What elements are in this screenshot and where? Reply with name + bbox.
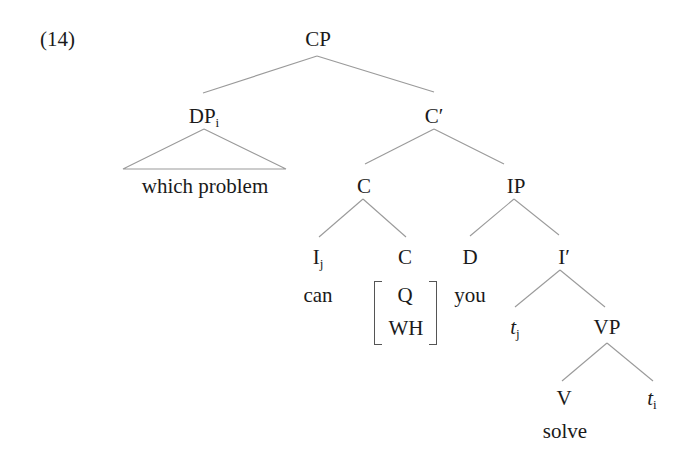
node-cp-label: CP <box>305 27 331 51</box>
trace-j-index: j <box>516 326 520 341</box>
terminal-solve: solve <box>543 420 587 442</box>
edge-ibar-vp <box>560 270 605 307</box>
edge-ip-d <box>470 199 514 236</box>
node-ibar: I′ <box>558 246 570 268</box>
edge-vp-v <box>562 343 607 381</box>
node-trace-j: tj <box>510 316 519 338</box>
node-i-label: I <box>313 245 320 269</box>
node-cp: CP <box>305 28 331 50</box>
edge-c-i <box>319 199 363 237</box>
node-c-head: C <box>398 246 412 268</box>
node-ip: IP <box>507 175 526 197</box>
feature-q: Q <box>397 284 412 306</box>
edge-ip-ibar <box>514 199 559 235</box>
node-dp-index: i <box>216 115 220 130</box>
feature-wh: WH <box>389 317 424 339</box>
feature-bracket-left <box>374 281 382 345</box>
terminal-which-problem: which problem <box>142 175 269 197</box>
terminal-can: can <box>303 284 332 306</box>
node-vp: VP <box>594 316 621 338</box>
example-number: (14) <box>40 28 75 50</box>
node-dp: DPi <box>189 105 219 127</box>
dp-triangle <box>123 129 286 169</box>
syntax-tree-figure: (14) CP DPi which problem C′ C IP Ij can… <box>0 0 695 473</box>
edge-cp-dp <box>203 56 317 93</box>
feature-bracket-right <box>429 281 437 345</box>
node-trace-i: ti <box>647 387 656 409</box>
node-c-complex: C <box>357 175 371 197</box>
node-v: V <box>556 387 571 409</box>
edge-ibar-t <box>515 270 560 307</box>
node-cbar: C′ <box>425 105 444 127</box>
edge-cbar-c <box>365 129 434 164</box>
terminal-you: you <box>454 284 486 306</box>
node-i-head: Ij <box>313 246 324 268</box>
tree-edges <box>0 0 695 473</box>
edge-cp-cbar <box>317 56 434 92</box>
edge-c-c <box>363 199 406 237</box>
node-i-index: j <box>320 256 324 271</box>
node-d: D <box>462 246 477 268</box>
node-dp-label: DP <box>189 104 216 128</box>
edge-cbar-ip <box>434 129 504 164</box>
edge-vp-t <box>607 343 653 381</box>
trace-i-index: i <box>653 397 657 412</box>
